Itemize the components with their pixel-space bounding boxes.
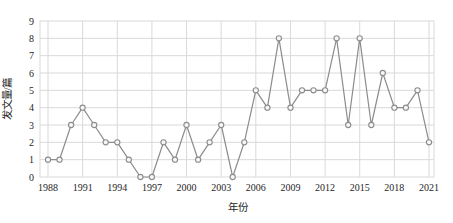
data-point-2000	[184, 122, 189, 127]
data-point-1995	[126, 157, 131, 162]
x-tick-label: 2003	[211, 182, 231, 193]
data-point-1989	[57, 157, 62, 162]
y-tick-label: 7	[29, 50, 34, 61]
publications-per-year-line-chart: 0123456789 19881991199419972000200320062…	[0, 0, 453, 223]
data-point-2010	[299, 88, 304, 93]
data-point-2018	[392, 105, 397, 110]
data-point-1992	[92, 122, 97, 127]
x-tick-label: 2015	[350, 182, 370, 193]
x-tick-label: 2006	[246, 182, 266, 193]
data-point-2008	[276, 36, 281, 41]
data-point-2007	[265, 105, 270, 110]
x-axis-tick-labels: 1988199119941997200020032006200920122015…	[38, 182, 439, 193]
x-tick-label: 2000	[177, 182, 197, 193]
y-tick-label: 9	[29, 16, 34, 27]
data-point-2017	[380, 70, 385, 75]
y-tick-label: 8	[29, 33, 34, 44]
chart-canvas: 0123456789 19881991199419972000200320062…	[0, 0, 453, 223]
data-point-2016	[369, 122, 374, 127]
data-point-2011	[311, 88, 316, 93]
data-point-2021	[426, 140, 431, 145]
data-point-1994	[115, 140, 120, 145]
y-axis-title: 发文量/篇	[1, 78, 13, 121]
data-point-2003	[219, 122, 224, 127]
y-tick-label: 4	[29, 102, 34, 113]
data-point-2012	[323, 88, 328, 93]
data-point-2004	[230, 174, 235, 179]
data-point-2009	[288, 105, 293, 110]
data-point-2013	[334, 36, 339, 41]
y-tick-label: 0	[29, 172, 34, 183]
y-tick-label: 6	[29, 68, 34, 79]
y-tick-label: 1	[29, 154, 34, 165]
data-point-1991	[80, 105, 85, 110]
data-point-1996	[138, 174, 143, 179]
x-axis-title: 年份	[228, 201, 249, 213]
plot-area-border	[40, 21, 434, 177]
x-tick-label: 2021	[419, 182, 439, 193]
data-point-1999	[172, 157, 177, 162]
data-point-2019	[403, 105, 408, 110]
x-tick-label: 1997	[142, 182, 162, 193]
data-point-2002	[207, 140, 212, 145]
data-point-2015	[357, 36, 362, 41]
data-point-1997	[149, 174, 154, 179]
x-tick-label: 1994	[107, 182, 127, 193]
data-point-1998	[161, 140, 166, 145]
data-point-1993	[103, 140, 108, 145]
x-tick-label: 2018	[384, 182, 404, 193]
data-point-2014	[346, 122, 351, 127]
data-point-1988	[45, 157, 50, 162]
data-point-2006	[253, 88, 258, 93]
x-tick-label: 1991	[73, 182, 93, 193]
x-tick-label: 2009	[280, 182, 300, 193]
data-point-2001	[196, 157, 201, 162]
data-point-2020	[415, 88, 420, 93]
y-axis-tick-labels: 0123456789	[29, 16, 34, 183]
data-point-1990	[69, 122, 74, 127]
x-tick-label: 1988	[38, 182, 58, 193]
gridlines	[40, 21, 434, 177]
y-tick-label: 2	[29, 137, 34, 148]
y-tick-label: 5	[29, 85, 34, 96]
y-tick-label: 3	[29, 120, 34, 131]
x-tick-label: 2012	[315, 182, 335, 193]
data-point-2005	[242, 140, 247, 145]
